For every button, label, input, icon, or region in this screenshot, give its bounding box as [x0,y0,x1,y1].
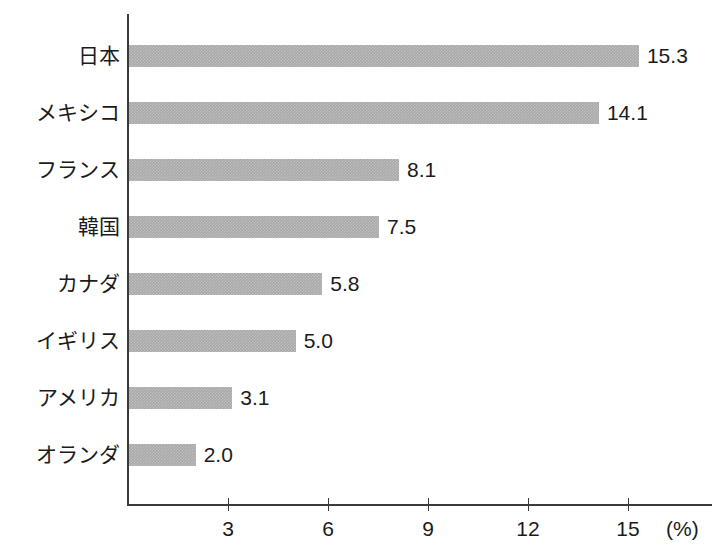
category-label: アメリカ [37,387,120,409]
x-axis-tick-label: 9 [422,516,434,542]
x-axis-tick-mark [228,498,229,511]
bar [129,330,296,352]
category-label: メキシコ [36,102,120,124]
x-axis-line [127,504,712,506]
x-axis-unit-label: (%) [666,516,699,542]
bar-value-label: 5.0 [304,330,333,352]
bar [129,102,599,124]
x-axis-tick-mark [528,498,529,511]
bar-value-label: 8.1 [407,159,436,181]
bar-value-label: 15.3 [647,45,688,67]
x-axis-tick-label: 15 [616,516,639,542]
x-axis-tick-label: 3 [222,516,234,542]
x-axis-tick-mark [628,498,629,511]
x-axis-tick-label: 12 [516,516,539,542]
bar [129,159,399,181]
category-label: フランス [36,159,120,181]
category-label: イギリス [36,330,120,352]
bar [129,45,639,67]
category-label: カナダ [57,273,120,295]
bar-value-label: 7.5 [387,216,416,238]
bar [129,444,196,466]
bar-value-label: 5.8 [330,273,359,295]
bar-value-label: 3.1 [240,387,269,409]
category-label: オランダ [36,444,120,466]
y-axis-line [127,14,129,506]
category-label: 韓国 [78,216,120,238]
bar-value-label: 14.1 [607,102,648,124]
bar [129,216,379,238]
category-label: 日本 [78,45,120,67]
x-axis-tick-label: 6 [322,516,334,542]
bar [129,387,232,409]
x-axis-tick-mark [428,498,429,511]
x-axis-tick-mark [328,498,329,511]
bar-chart: 3691215 日本メキシコフランス韓国カナダイギリスアメリカオランダ 15.3… [0,0,719,558]
bar-value-label: 2.0 [204,444,233,466]
bar [129,273,322,295]
